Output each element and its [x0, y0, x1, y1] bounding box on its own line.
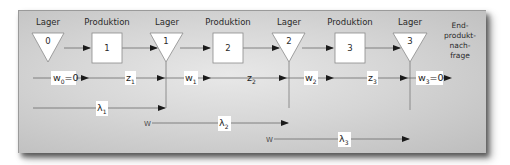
label-produktion-2: Produktion: [205, 17, 250, 27]
label-produktion-3: Produktion: [327, 17, 372, 27]
var-sub: 2: [225, 123, 229, 130]
var-suffix: =0: [65, 72, 79, 83]
svg-text:w0=0: w0=0: [53, 72, 79, 85]
var-sub: 3: [345, 139, 349, 146]
lager-number: 3: [407, 36, 412, 46]
var-suffix: =0: [430, 72, 444, 83]
label-lager-3: Lager: [398, 17, 423, 27]
arrow-icon: [326, 75, 334, 81]
label-w1: w1: [184, 71, 198, 85]
arrow-icon: [400, 75, 408, 81]
label-lambda-1: λ1: [96, 101, 108, 116]
var-sub: 1: [103, 108, 107, 115]
end-demand-line-4: frage: [450, 51, 470, 60]
produktion-node-3: 3: [335, 33, 365, 63]
label-lager-2: Lager: [277, 17, 302, 27]
w-marker-3: W: [266, 136, 273, 144]
label-w3: w3=0: [416, 71, 444, 85]
supply-chain-diagram: Lager Produktion Lager Produktion Lager …: [0, 0, 510, 165]
arrow-icon: [203, 75, 211, 81]
lager-node-0: 0: [32, 33, 64, 62]
w-marker-2: W: [144, 120, 151, 128]
lager-number: 0: [45, 36, 50, 46]
end-demand-line-1: End-: [452, 21, 469, 30]
end-demand-line-3: nach-: [450, 41, 471, 50]
produktion-node-2: 2: [213, 33, 243, 63]
arrow-icon: [157, 75, 165, 81]
label-w2: w2: [304, 71, 318, 85]
var-sub: 2: [313, 78, 317, 85]
label-z3: z3: [367, 71, 378, 85]
arrow-icon: [81, 75, 89, 81]
label-produktion-1: Produktion: [84, 17, 129, 27]
label-z1: z1: [125, 71, 136, 85]
lager-node-2: 2: [272, 33, 305, 62]
label-lager-1: Lager: [155, 17, 180, 27]
label-lager-0: Lager: [36, 17, 61, 27]
produktion-number: 2: [225, 43, 230, 53]
lager-number: 1: [163, 36, 168, 46]
lager-node-3: 3: [393, 33, 427, 62]
svg-text:w3=0: w3=0: [418, 72, 444, 85]
lager-node-1: 1: [150, 33, 183, 62]
var-sub: 3: [373, 78, 377, 85]
produktion-number: 1: [104, 43, 109, 53]
end-demand-label: End- produkt- nach- frage: [444, 21, 476, 60]
arrow-icon: [444, 75, 452, 81]
lager-number: 2: [286, 36, 291, 46]
var-sub: 2: [252, 78, 256, 85]
label-w0: w0=0: [51, 71, 79, 85]
arrow-icon: [279, 75, 287, 81]
var-sub: 1: [193, 78, 197, 85]
var-sub: 1: [131, 78, 135, 85]
produktion-number: 3: [347, 43, 352, 53]
label-lambda-2: λ2: [218, 116, 231, 131]
label-lambda-3: λ3: [338, 132, 351, 147]
end-demand-line-2: produkt-: [444, 31, 476, 40]
label-z2: z2: [246, 71, 257, 85]
produktion-node-1: 1: [92, 33, 122, 63]
